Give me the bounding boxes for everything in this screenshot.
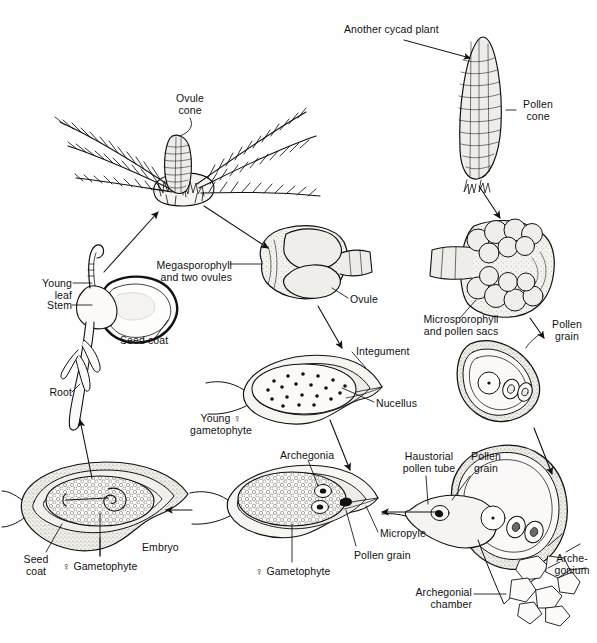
label-embryo: Embryo (142, 541, 179, 553)
label-pollen-cone: Pollen cone (511, 98, 565, 122)
label-integument: Integument (356, 345, 410, 357)
label-pollen-grain-ovule: Pollen grain (354, 549, 411, 561)
cycad-life-cycle-illustration (0, 0, 597, 643)
label-female-gametophyte-mid: ♀ Gametophyte (250, 565, 336, 577)
pollen-grain-shape (457, 341, 539, 422)
label-nucellus: Nucellus (376, 397, 417, 409)
ovule-cone-shape (164, 135, 191, 193)
label-root: Root (26, 386, 72, 398)
label-stem: Stem (22, 299, 72, 311)
label-archegonia: Archegonia (280, 449, 334, 461)
label-seed-coat-top: Seed coat (120, 334, 168, 346)
ovulate-cycad-plant (55, 108, 320, 206)
mature-ovule-shape (190, 465, 378, 537)
label-female-gametophyte-seed: ♀ Gametophyte (52, 560, 148, 572)
label-megasporophyll-and-two-ovules: Megasporophyll and two ovules (148, 259, 232, 283)
label-microsporophyll-and-pollen-sacs: Microsporophyll and pollen sacs (418, 313, 504, 337)
label-archegonium: Arche- gonium (548, 552, 596, 576)
label-micropyle: Micropyle (380, 527, 426, 539)
label-young-leaf: Young leaf (14, 277, 72, 301)
label-ovule-cone: Ovule cone (157, 92, 223, 116)
label-another-cycad-plant: Another cycad plant (344, 23, 439, 35)
microsporophyll-shape (430, 219, 554, 317)
label-haustorial-pollen-tube: Haustorial pollen tube (386, 450, 472, 474)
megasporophyll-shape (260, 226, 372, 299)
label-archegonial-chamber: Archegonial chamber (390, 586, 472, 610)
label-pollen-grain-tube: Pollen grain (462, 450, 510, 474)
label-young-female-gametophyte: Young ♀ gametophyte (178, 412, 264, 436)
diagram-canvas: Ovule cone Another cycad plant Pollen co… (0, 0, 597, 643)
pollen-cone-shape (459, 37, 501, 194)
label-pollen-grain-right: Pollen grain (542, 318, 592, 342)
label-ovule: Ovule (350, 293, 378, 305)
